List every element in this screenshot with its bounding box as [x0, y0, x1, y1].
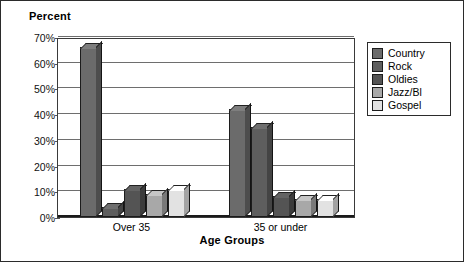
bar-group: [207, 39, 356, 217]
legend-swatch-icon: [372, 100, 383, 111]
bar-gospel[interactable]: [317, 199, 334, 217]
legend-swatch-icon: [372, 87, 383, 98]
y-axis: 0%10%20%30%40%50%60%70%: [11, 31, 55, 225]
legend-item-label: Rock: [388, 61, 412, 72]
legend-swatch-icon: [372, 74, 383, 85]
x-axis-title: Age Groups: [1, 234, 463, 246]
y-axis-tick-label: 30%: [15, 136, 55, 146]
bar-jazz-bl[interactable]: [146, 194, 163, 217]
bar-side-face: [184, 183, 190, 217]
plot-area: [57, 38, 355, 218]
y-axis-title: Percent: [29, 10, 71, 22]
legend-swatch-icon: [372, 61, 383, 72]
y-axis-tick-label: 50%: [15, 84, 55, 94]
bar-jazz-bl[interactable]: [295, 199, 312, 217]
y-axis-tick-label: 70%: [15, 33, 55, 43]
y-axis-tick-label: 40%: [15, 110, 55, 120]
legend-item[interactable]: Gospel: [372, 99, 446, 111]
legend-item-label: Jazz/Bl: [388, 87, 422, 98]
y-axis-tick-label: 60%: [15, 59, 55, 69]
y-axis-tick-label: 20%: [15, 162, 55, 172]
bar-gospel[interactable]: [168, 189, 185, 217]
bar-oldies[interactable]: [273, 196, 290, 217]
bar-side-face: [96, 41, 102, 217]
bar-country[interactable]: [80, 47, 97, 217]
legend-item[interactable]: Jazz/Bl: [372, 86, 446, 98]
legend-item-label: Oldies: [388, 74, 418, 85]
legend-swatch-icon: [372, 48, 383, 59]
bar-side-face: [333, 193, 339, 217]
chart-figure: Percent 0%10%20%30%40%50%60%70% CountryR…: [0, 0, 464, 262]
category-label: Over 35: [72, 221, 192, 233]
bar-rock[interactable]: [102, 207, 119, 217]
legend-item-label: Gospel: [388, 100, 421, 111]
gridline-70: [58, 36, 354, 37]
chart-legend: CountryRockOldiesJazz/BlGospel: [367, 42, 451, 116]
bar-country[interactable]: [229, 109, 246, 217]
y-axis-tick: [55, 218, 60, 219]
y-axis-tick-label: 10%: [15, 187, 55, 197]
legend-item[interactable]: Rock: [372, 60, 446, 72]
bar-rock[interactable]: [251, 127, 268, 217]
bar-oldies[interactable]: [124, 189, 141, 217]
bar-group: [58, 39, 207, 217]
legend-item-label: Country: [388, 48, 425, 59]
category-label: 35 or under: [221, 221, 341, 233]
legend-item[interactable]: Oldies: [372, 73, 446, 85]
legend-item[interactable]: Country: [372, 47, 446, 59]
y-axis-tick-label: 0%: [15, 213, 55, 223]
